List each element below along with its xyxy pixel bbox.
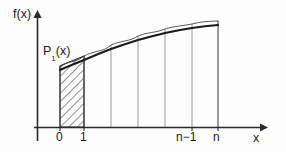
shaded-region-p1 — [60, 56, 84, 127]
region-label-p1x: P1(x) — [43, 45, 70, 61]
figure-container: f(x) P1(x) x 0 1 n−1 n — [0, 0, 286, 152]
tick-label-n-minus-1: n−1 — [176, 131, 196, 143]
y-axis-label: f(x) — [13, 8, 31, 21]
figure-svg — [0, 0, 286, 152]
x-axis-arrow-icon — [260, 123, 268, 131]
region-label-tail: (x) — [56, 44, 71, 58]
tick-label-n: n — [213, 131, 220, 143]
y-axis-arrow-icon — [33, 10, 41, 18]
tick-label-1: 1 — [80, 131, 87, 143]
region-label-subscript: 1 — [51, 54, 55, 63]
tick-label-0: 0 — [56, 131, 63, 143]
x-axis-label: x — [253, 132, 259, 145]
